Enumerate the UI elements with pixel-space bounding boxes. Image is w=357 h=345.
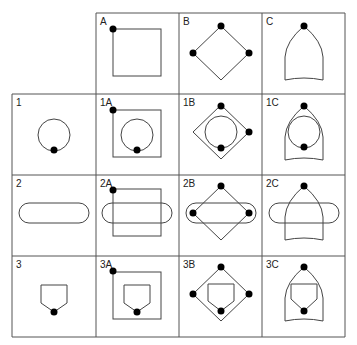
cell-3: 3: [16, 259, 67, 316]
cell-3A: 3A: [100, 259, 161, 319]
cell-3B: 3B: [183, 259, 253, 321]
svg-text:2A: 2A: [100, 178, 113, 189]
svg-text:3C: 3C: [266, 259, 279, 270]
cell-2C: 2C: [266, 178, 339, 240]
cell-1C: 1C: [266, 97, 323, 160]
cell-3C: 3C: [266, 259, 323, 321]
cell-2B: 2B: [183, 178, 256, 240]
vertex-dot: [110, 26, 117, 33]
cell-1A: 1A: [100, 97, 161, 157]
svg-text:2: 2: [16, 178, 22, 189]
cell-1B: 1B: [183, 97, 253, 159]
svg-text:2B: 2B: [183, 178, 196, 189]
svg-text:3B: 3B: [183, 259, 196, 270]
cell-C: C: [266, 16, 323, 80]
svg-text:3A: 3A: [100, 259, 113, 270]
svg-text:B: B: [183, 16, 190, 27]
cell-1: 1: [16, 97, 70, 154]
svg-text:2C: 2C: [266, 178, 279, 189]
svg-text:1C: 1C: [266, 97, 279, 108]
cell-A: A: [100, 16, 161, 76]
cell-2: 2: [16, 178, 89, 223]
cell-2A: 2A: [100, 178, 172, 236]
svg-text:1B: 1B: [183, 97, 196, 108]
svg-text:1A: 1A: [100, 97, 113, 108]
svg-text:3: 3: [16, 259, 22, 270]
svg-text:A: A: [100, 16, 107, 27]
svg-text:C: C: [266, 16, 273, 27]
combination-grid-diagram: A B C 1 1A 1B 1C: [0, 0, 357, 345]
svg-text:1: 1: [16, 97, 22, 108]
grid-lines: [12, 13, 345, 337]
cell-B: B: [183, 16, 253, 80]
